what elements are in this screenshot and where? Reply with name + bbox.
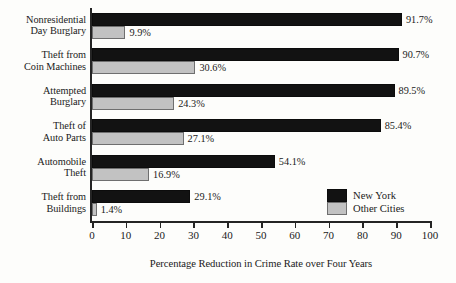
x-axis-title: Percentage Reduction in Crime Rate over … <box>92 258 430 269</box>
bar-new-york <box>92 155 275 168</box>
category-axis-labels: NonresidentialDay BurglaryTheft fromCoin… <box>0 8 86 221</box>
bar-other-cities <box>92 61 195 74</box>
bar-value-label: 89.5% <box>399 84 426 97</box>
bar-chart: NonresidentialDay BurglaryTheft fromCoin… <box>0 0 456 283</box>
y-axis-line <box>90 8 92 221</box>
x-tick <box>160 223 162 228</box>
legend-label-new-york: New York <box>347 189 396 202</box>
bar-new-york <box>92 119 381 132</box>
category-label-line: Theft from <box>0 49 86 61</box>
bar-other-cities <box>92 26 125 39</box>
category-label-line: Day Burglary <box>0 25 86 37</box>
bar-value-label: 54.1% <box>279 155 306 168</box>
chart-legend: New York Other Cities <box>327 189 405 215</box>
bar-value-label: 1.4% <box>101 203 122 216</box>
category-label-line: Auto Parts <box>0 132 86 144</box>
bar-new-york <box>92 13 402 26</box>
bar-group: 91.7%9.9% <box>92 13 430 39</box>
bar-new-york <box>92 84 395 97</box>
bar-value-label: 24.3% <box>178 97 205 110</box>
bar-value-label: 9.9% <box>129 26 150 39</box>
bar-value-label: 91.7% <box>406 13 433 26</box>
x-tick-label: 100 <box>410 229 450 242</box>
category-label: AutomobileTheft <box>0 156 86 179</box>
bar-value-label: 90.7% <box>403 48 430 61</box>
category-label-line: Attempted <box>0 85 86 97</box>
legend-label-other-cities: Other Cities <box>347 202 405 215</box>
black-swatch-icon <box>327 189 347 202</box>
bar-group: 85.4%27.1% <box>92 119 430 145</box>
category-label: Theft ofAuto Parts <box>0 120 86 143</box>
category-label: NonresidentialDay Burglary <box>0 14 86 37</box>
x-tick <box>430 223 432 228</box>
x-tick <box>362 223 364 228</box>
bar-value-label: 16.9% <box>153 168 180 181</box>
bar-new-york <box>92 190 190 203</box>
category-label: Theft fromBuildings <box>0 191 86 214</box>
bar-group: 90.7%30.6% <box>92 48 430 74</box>
category-label-line: Theft of <box>0 120 86 132</box>
x-tick <box>261 223 263 228</box>
bar-value-label: 27.1% <box>188 132 215 145</box>
category-label-line: Nonresidential <box>0 14 86 26</box>
bar-value-label: 85.4% <box>385 119 412 132</box>
x-tick <box>126 223 128 228</box>
gray-swatch-icon <box>327 202 347 215</box>
bar-other-cities <box>92 97 174 110</box>
category-label-line: Theft <box>0 167 86 179</box>
bar-new-york <box>92 48 399 61</box>
category-label-line: Coin Machines <box>0 61 86 73</box>
x-tick <box>227 223 229 228</box>
legend-item-other-cities: Other Cities <box>327 202 405 215</box>
category-label-line: Burglary <box>0 96 86 108</box>
category-label-line: Buildings <box>0 203 86 215</box>
bar-other-cities <box>92 203 97 216</box>
x-tick <box>329 223 331 228</box>
category-label-line: Theft from <box>0 191 86 203</box>
category-label-line: Automobile <box>0 156 86 168</box>
legend-item-new-york: New York <box>327 189 405 202</box>
bar-other-cities <box>92 168 149 181</box>
bar-group: 54.1%16.9% <box>92 155 430 181</box>
x-tick <box>193 223 195 228</box>
bar-value-label: 29.1% <box>194 190 221 203</box>
category-label: AttemptedBurglary <box>0 85 86 108</box>
x-tick <box>396 223 398 228</box>
category-label: Theft fromCoin Machines <box>0 49 86 72</box>
bar-value-label: 30.6% <box>199 61 226 74</box>
bar-group: 89.5%24.3% <box>92 84 430 110</box>
x-tick <box>92 223 94 228</box>
bar-other-cities <box>92 132 184 145</box>
x-tick <box>295 223 297 228</box>
